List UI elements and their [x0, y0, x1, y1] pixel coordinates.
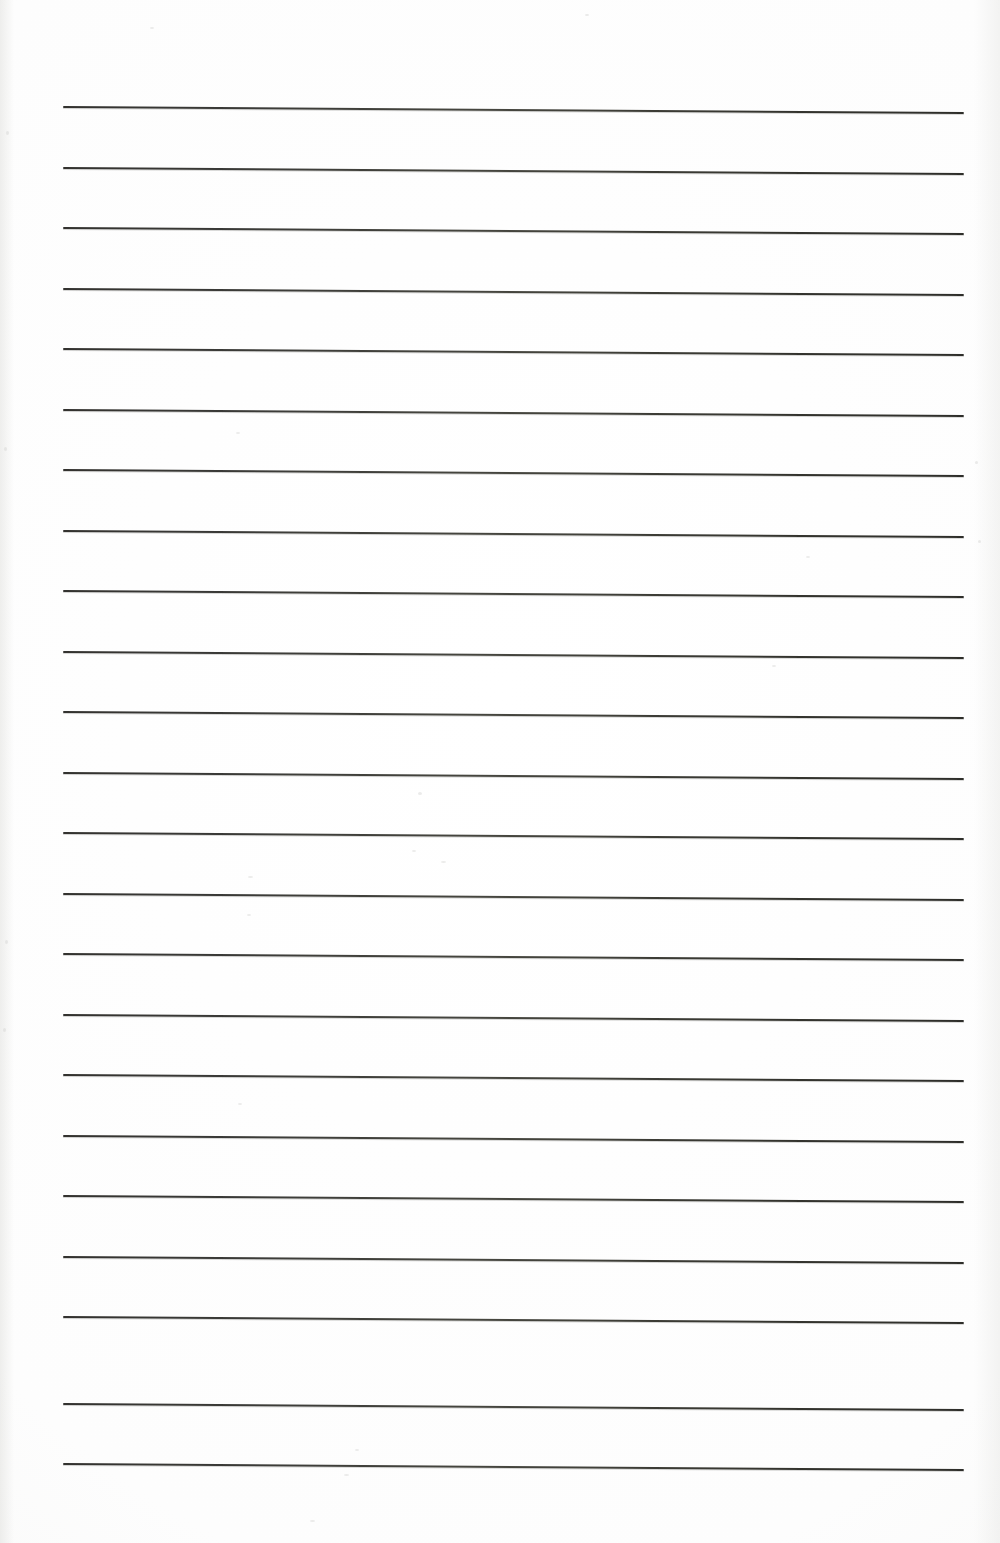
ruled-line — [63, 1256, 964, 1264]
ruled-line — [63, 1135, 964, 1143]
ruled-line — [63, 1195, 964, 1203]
ruled-line — [63, 106, 964, 114]
ruled-line — [63, 409, 964, 417]
ruled-line — [63, 711, 964, 719]
ruled-line — [63, 288, 964, 296]
scanned-page: A scanned blank sheet of ruled writing p… — [0, 0, 1000, 1543]
ruled-line — [63, 832, 964, 840]
ruled-line — [63, 167, 964, 175]
ruled-line — [63, 893, 964, 901]
ruled-line — [63, 1463, 964, 1471]
ruled-line — [63, 772, 964, 780]
ruled-lines-group — [0, 0, 1000, 1543]
ruled-line — [63, 348, 964, 356]
ruled-line — [63, 953, 964, 961]
ruled-line — [63, 651, 964, 659]
ruled-line — [63, 227, 964, 235]
ruled-line — [63, 1074, 964, 1082]
ruled-line — [63, 1403, 964, 1411]
ruled-line — [63, 469, 964, 477]
ruled-line — [63, 1316, 964, 1324]
ruled-line — [63, 530, 964, 538]
ruled-line — [63, 1014, 964, 1022]
ruled-line — [63, 590, 964, 598]
